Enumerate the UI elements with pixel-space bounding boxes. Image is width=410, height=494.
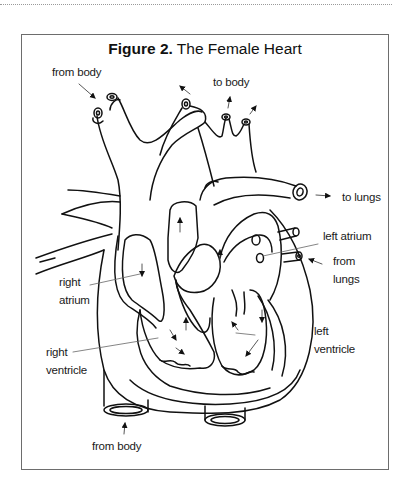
label-right-ventricle-line2: ventricle (46, 361, 87, 379)
flow-arrows (142, 218, 262, 356)
label-to-body: to body (213, 73, 249, 91)
label-left-ventricle-line2: ventricle (314, 340, 355, 358)
left-atrium-chamber (220, 213, 281, 301)
label-from-body-bottom: from body (92, 437, 141, 455)
pulmonary-artery (200, 177, 309, 205)
label-from-body-top: from body (52, 63, 101, 81)
label-right-atrium: right atrium (59, 273, 90, 309)
right-ventricle-chamber (137, 280, 270, 395)
label-right-atrium-line1: right (59, 273, 90, 291)
label-to-lungs: to lungs (342, 188, 381, 206)
right-pulmonary-branches (36, 190, 120, 274)
label-from-lungs-line2: lungs (333, 270, 360, 288)
label-left-atrium: left atrium (323, 227, 371, 245)
aorta (150, 99, 256, 200)
label-left-ventricle: left ventricle (314, 322, 355, 358)
label-from-lungs: from lungs (333, 252, 360, 288)
label-left-ventricle-line1: left (314, 322, 355, 340)
valves-septum (168, 202, 272, 332)
label-right-ventricle-line1: right (46, 343, 87, 361)
label-arrows (79, 84, 330, 434)
label-right-ventricle: right ventricle (46, 343, 87, 379)
label-from-lungs-line1: from (333, 252, 360, 270)
left-ventricle-chamber (212, 290, 285, 376)
label-right-atrium-line2: atrium (59, 291, 90, 309)
